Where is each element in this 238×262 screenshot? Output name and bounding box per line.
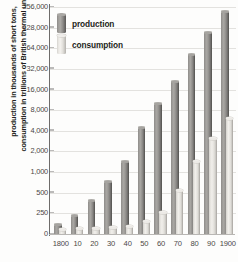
bar-cap [221,10,229,13]
bar-cap [159,211,166,214]
consumption-bar [159,212,166,234]
bar-body [121,162,129,234]
legend-label-production: production [72,19,114,29]
y-tick-label: 1,000 [2,167,48,176]
coal-production-consumption-chart: production in thousands of short tons, c… [0,0,238,262]
swatch-cap [57,13,66,16]
legend-item-production: production [57,13,123,34]
bar-group [137,7,154,234]
bar-cap [204,31,212,34]
consumption-bar [226,119,233,234]
consumption-bar [209,138,216,234]
consumption-bar [109,227,116,234]
y-tick-label: 2,000 [2,146,48,155]
consumption-bar [76,229,83,234]
legend-swatch-production [57,14,66,33]
swatch-cap [57,34,66,37]
bar-body [209,138,216,234]
x-axis-tick-labels: 18001020304050607080901900 [50,239,238,253]
y-tick-label: 32,000 [2,64,48,73]
y-tick-label: 128,000 [2,23,48,32]
bar-cap [143,220,150,223]
production-bar [138,128,146,234]
bar-cap [188,53,196,56]
bar-body [176,190,183,234]
y-tick-label: 250 [2,208,48,217]
y-tick-label: 4,000 [2,126,48,135]
consumption-bar [92,228,99,234]
legend-item-consumption: consumption [57,34,123,55]
y-tick-label: 16,000 [2,85,48,94]
legend-label-consumption: consumption [72,40,123,50]
production-bar [121,162,129,234]
y-tick-label: 0 [2,229,48,238]
bar-cap [171,80,179,83]
bar-cap [154,102,162,105]
consumption-bar [126,226,133,234]
bar-group [187,7,204,234]
bar-group [170,7,187,234]
y-tick-label: 500 [2,188,48,197]
bar-group [220,7,237,234]
bar-body [143,222,150,234]
legend-swatch-consumption [57,35,66,54]
consumption-bar [193,162,200,234]
bar-cap [126,225,133,228]
bar-group [203,7,220,234]
bar-body [226,119,233,234]
consumption-bar [143,222,150,234]
y-tick-label: 256,000 [2,2,48,11]
bar-body [138,128,146,234]
y-axis-line [49,4,50,236]
bar-cap [92,227,99,230]
x-tick-label: 1900 [216,239,238,248]
bar-cap [109,226,116,229]
bar-cap [176,189,183,192]
bar-body [159,212,166,234]
bar-group [153,7,170,234]
legend: productionconsumption [57,13,123,55]
y-tick-label: 64,000 [2,43,48,52]
bar-cap [209,137,216,140]
bar-body [193,162,200,234]
y-tick-label: 8,000 [2,105,48,114]
x-axis-line [49,234,235,235]
consumption-bar [176,190,183,234]
consumption-bar [59,229,66,234]
